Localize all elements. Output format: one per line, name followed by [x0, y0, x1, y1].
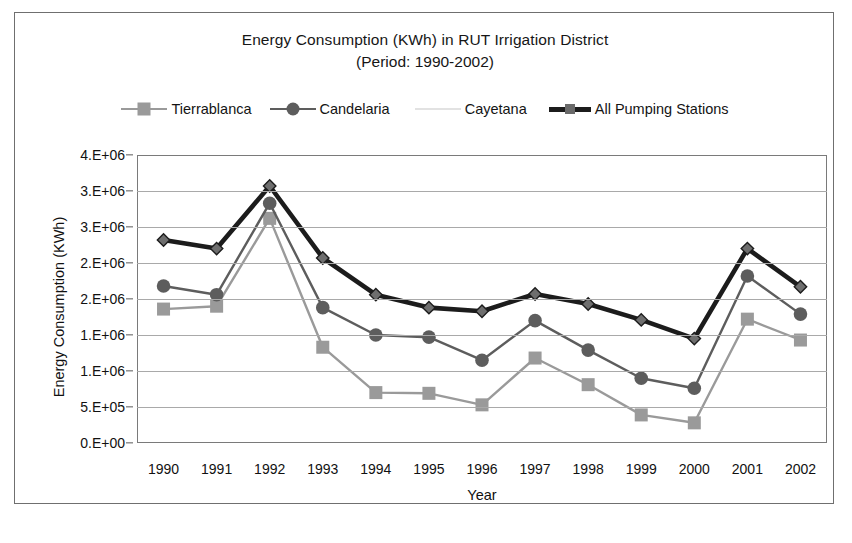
- chart-title: Energy Consumption (KWh) in RUT Irrigati…: [15, 29, 835, 50]
- series-marker: [794, 307, 808, 321]
- legend-entry-cayetana[interactable]: Cayetana: [415, 101, 527, 117]
- y-axis-tick-mark: [126, 334, 133, 335]
- x-axis-tick-label: 1991: [201, 461, 232, 477]
- series-marker: [369, 386, 382, 399]
- gridline: [137, 227, 827, 228]
- series-marker: [634, 371, 648, 385]
- series-marker: [528, 314, 542, 328]
- y-axis-tick-mark: [126, 154, 133, 155]
- gridline: [137, 407, 827, 408]
- legend-label-candelaria: Candelaria: [320, 101, 390, 117]
- legend-label-cayetana: Cayetana: [465, 101, 527, 117]
- y-axis-tick-label: 2.E+06: [80, 255, 125, 271]
- legend-entry-candelaria[interactable]: Candelaria: [270, 101, 390, 117]
- legend-swatch-line-icon: [415, 101, 461, 117]
- gridline: [137, 299, 827, 300]
- series-marker: [688, 381, 702, 395]
- series-marker: [210, 300, 223, 313]
- y-axis: 4.E+063.E+063.E+062.E+062.E+061.E+061.E+…: [67, 155, 133, 443]
- gridline: [137, 263, 827, 264]
- gridline: [137, 191, 827, 192]
- y-axis-title: Energy Consumption (KWh): [51, 167, 67, 447]
- y-axis-tick-label: 5.E+05: [80, 399, 125, 415]
- x-axis-tick-label: 1996: [466, 461, 497, 477]
- y-axis-tick-mark: [126, 370, 133, 371]
- series-marker: [582, 378, 595, 391]
- x-axis-tick-label: 1997: [519, 461, 550, 477]
- y-axis-tick-mark: [126, 226, 133, 227]
- x-axis-tick-label: 2000: [679, 461, 710, 477]
- series-marker: [635, 408, 648, 421]
- series-marker: [157, 234, 169, 246]
- legend-label-all-pumping-stations: All Pumping Stations: [595, 101, 729, 117]
- y-axis-tick-mark: [126, 406, 133, 407]
- x-axis-tick-label: 1994: [360, 461, 391, 477]
- x-axis: 1990199119921993199419951996199719981999…: [137, 461, 827, 483]
- legend-swatch-square-icon: [121, 101, 167, 117]
- series-marker: [423, 301, 435, 313]
- chart-legend: Tierrablanca Candelaria Cayetana All Pum…: [15, 101, 835, 117]
- series-marker: [157, 279, 171, 293]
- x-axis-tick-label: 1992: [254, 461, 285, 477]
- legend-swatch-diamond-icon: [549, 101, 591, 117]
- legend-label-tierrablanca: Tierrablanca: [171, 101, 251, 117]
- y-axis-tick-mark: [126, 262, 133, 263]
- series-marker: [475, 353, 489, 367]
- series-marker: [581, 343, 595, 357]
- series-marker: [316, 341, 329, 354]
- series-marker: [263, 196, 277, 210]
- y-axis-tick-label: 3.E+06: [80, 219, 125, 235]
- y-axis-tick-label: 3.E+06: [80, 183, 125, 199]
- y-axis-tick-mark: [126, 442, 133, 443]
- series-marker: [316, 301, 330, 315]
- chart-figure: Energy Consumption (KWh) in RUT Irrigati…: [14, 12, 834, 504]
- series-tierrablanca: [157, 212, 807, 429]
- series-marker: [688, 416, 701, 429]
- plot-area: [137, 155, 827, 443]
- series-marker: [635, 314, 647, 326]
- series-marker: [476, 398, 489, 411]
- y-axis-tick-label: 4.E+06: [80, 147, 125, 163]
- series-marker: [529, 352, 542, 365]
- y-axis-tick-label: 0.E+00: [80, 435, 125, 451]
- series-marker: [741, 269, 755, 283]
- series-marker: [476, 305, 488, 317]
- x-axis-tick-label: 1998: [573, 461, 604, 477]
- series-marker: [157, 303, 170, 316]
- chart-subtitle: (Period: 1990-2002): [15, 51, 835, 72]
- legend-entry-all-pumping-stations[interactable]: All Pumping Stations: [549, 101, 729, 117]
- y-axis-tick-label: 1.E+06: [80, 363, 125, 379]
- series-marker: [741, 313, 754, 326]
- x-axis-tick-label: 2002: [785, 461, 816, 477]
- y-axis-tick-label: 2.E+06: [80, 291, 125, 307]
- gridline: [137, 335, 827, 336]
- gridline: [137, 371, 827, 372]
- x-axis-tick-label: 1995: [413, 461, 444, 477]
- y-axis-tick-label: 1.E+06: [80, 327, 125, 343]
- legend-entry-tierrablanca[interactable]: Tierrablanca: [121, 101, 251, 117]
- x-axis-tick-label: 1993: [307, 461, 338, 477]
- series-marker: [422, 387, 435, 400]
- y-axis-tick-mark: [126, 298, 133, 299]
- x-axis-title: Year: [137, 487, 827, 503]
- series-marker: [422, 330, 436, 344]
- y-axis-tick-mark: [126, 190, 133, 191]
- x-axis-tick-label: 1999: [626, 461, 657, 477]
- x-axis-tick-label: 1990: [148, 461, 179, 477]
- x-axis-tick-label: 2001: [732, 461, 763, 477]
- legend-swatch-circle-icon: [270, 101, 316, 117]
